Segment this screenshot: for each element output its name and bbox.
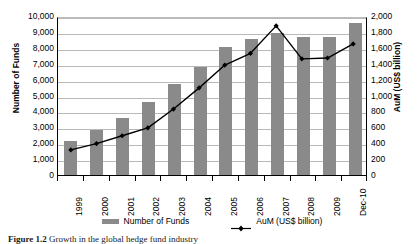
legend-bar-swatch-icon — [102, 219, 119, 224]
x-axis-tick — [212, 176, 213, 181]
x-axis-tick — [109, 176, 110, 181]
y-axis-left-tick-label: 0 — [49, 171, 54, 180]
line-marker — [68, 147, 73, 152]
x-axis-tick — [341, 176, 342, 181]
x-axis-tick — [57, 176, 58, 181]
figure-caption: Figure 1.2 Growth in the global hedge fu… — [8, 234, 408, 244]
x-axis-tick — [315, 176, 316, 181]
legend-item-aum: AuM (US$ billion) — [231, 216, 322, 226]
x-axis-ticks — [57, 176, 367, 182]
y-axis-left-tick-label: 8,000 — [33, 44, 54, 53]
y-axis-left-tick-label: 5,000 — [33, 92, 54, 101]
x-axis-tick — [290, 176, 291, 181]
chart-legend: Number of Funds AuM (US$ billion) — [57, 214, 367, 228]
line-series-aum — [58, 18, 366, 175]
line-marker — [351, 41, 356, 46]
y-axis-right-tick-label: 1,600 — [371, 44, 392, 53]
y-axis-right-tick-label: 800 — [371, 107, 385, 116]
figure-container: Number of Funds AuM (US$ billion) 01,000… — [0, 0, 417, 244]
y-axis-left-tick-label: 7,000 — [33, 60, 54, 69]
figure-caption-text: Growth in the global hedge fund industry — [49, 234, 198, 244]
y-axis-left-tick-label: 2,000 — [33, 139, 54, 148]
y-axis-left-tick-label: 1,000 — [33, 155, 54, 164]
y-axis-left-tick-label: 10,000 — [28, 12, 54, 21]
y-axis-right-tick-label: 200 — [371, 155, 385, 164]
y-axis-left-tick-label: 9,000 — [33, 28, 54, 37]
x-axis-tick — [186, 176, 187, 181]
figure-caption-label: Figure 1.2 — [8, 234, 47, 244]
line-marker — [120, 133, 125, 138]
y-axis-left-ticks: 01,0002,0003,0004,0005,0006,0007,0008,00… — [6, 0, 54, 244]
x-axis-tick — [160, 176, 161, 181]
x-axis-tick — [366, 176, 367, 181]
legend-line-swatch-icon — [231, 218, 251, 225]
line-marker — [325, 55, 330, 60]
x-axis-tick — [83, 176, 84, 181]
y-axis-right-tick-label: 0 — [371, 171, 376, 180]
x-axis-labels: 1999200020012002200320042005200620072008… — [57, 183, 367, 217]
x-axis-tick — [238, 176, 239, 181]
y-axis-right-tick-label: 1,400 — [371, 60, 392, 69]
x-axis-label: Dec-10 — [358, 189, 368, 216]
line-path — [71, 26, 353, 150]
y-axis-right-tick-label: 400 — [371, 139, 385, 148]
line-marker — [94, 141, 99, 146]
y-axis-right-tick-label: 600 — [371, 123, 385, 132]
y-axis-right-tick-label: 1,800 — [371, 28, 392, 37]
chart: Number of Funds AuM (US$ billion) 01,000… — [0, 0, 417, 244]
x-axis-tick — [264, 176, 265, 181]
y-axis-left-tick-label: 3,000 — [33, 123, 54, 132]
y-axis-right-tick-label: 1,000 — [371, 92, 392, 101]
plot-area — [57, 17, 367, 176]
y-axis-left-tick-label: 6,000 — [33, 76, 54, 85]
y-axis-right-tick-label: 1,200 — [371, 76, 392, 85]
legend-label-number-of-funds: Number of Funds — [124, 216, 190, 226]
x-axis-tick — [135, 176, 136, 181]
legend-item-number-of-funds: Number of Funds — [102, 216, 190, 226]
legend-label-aum: AuM (US$ billion) — [256, 216, 322, 226]
y-axis-left-tick-label: 4,000 — [33, 107, 54, 116]
y-axis-right-ticks: 02004006008001,0001,2001,4001,6001,8002,… — [371, 0, 415, 244]
y-axis-right-tick-label: 2,000 — [371, 12, 392, 21]
